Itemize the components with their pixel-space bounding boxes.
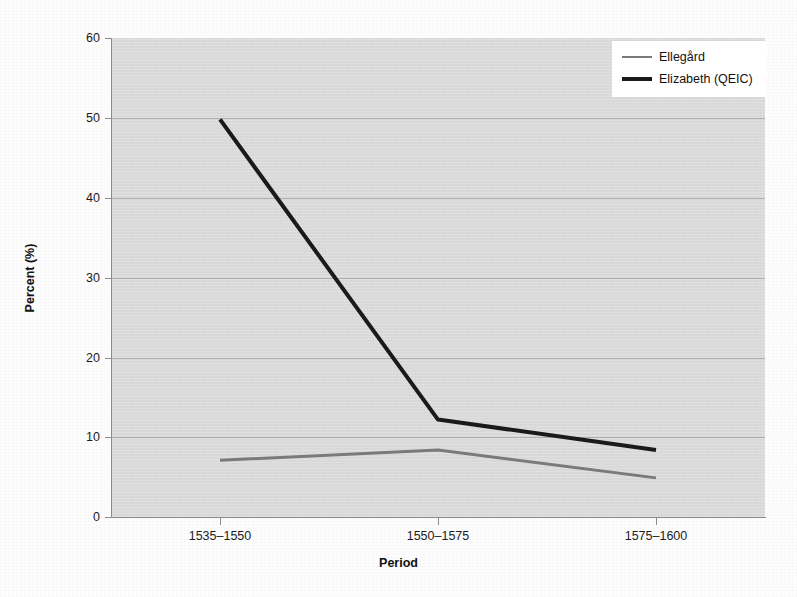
legend-item-elizabeth-qeic: Elizabeth (QEIC) [622,73,753,86]
line-chart-figure: 60 50 40 30 20 10 0 Percent (%) 1535–155… [0,0,797,597]
legend: Ellegård Elizabeth (QEIC) [612,41,767,97]
legend-swatch-line-icon-elizabeth-qeic [622,77,652,81]
legend-label-ellegard: Ellegård [659,51,705,64]
series-line-ellegard [220,450,656,478]
series-line-elizabeth-qeic [220,119,656,450]
legend-item-ellegard: Ellegård [622,51,705,64]
legend-swatch-line-icon-ellegard [622,56,652,58]
legend-label-elizabeth-qeic: Elizabeth (QEIC) [659,73,753,86]
